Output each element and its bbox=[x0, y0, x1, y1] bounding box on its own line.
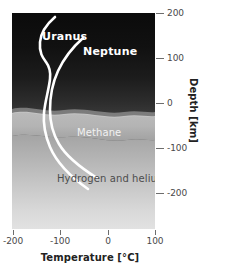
atmosphere-profile-chart: Uranus Neptune Methane Hydrogen and heli… bbox=[0, 0, 240, 276]
y-tick-label-100: 100 bbox=[167, 53, 184, 63]
y-tick-mark-200 bbox=[156, 13, 164, 14]
x-tick-mark-m200 bbox=[13, 230, 14, 235]
y-tick-label-0: 0 bbox=[167, 98, 173, 108]
y-tick-mark-0 bbox=[156, 103, 164, 104]
plot-area: Uranus Neptune Methane Hydrogen and heli… bbox=[12, 13, 155, 229]
y-axis-title: Depth [km] bbox=[188, 78, 199, 143]
x-axis-title: Temperature [°C] bbox=[0, 252, 180, 263]
annotation-neptune: Neptune bbox=[83, 45, 137, 58]
x-tick-label-m200: -200 bbox=[3, 236, 23, 246]
y-tick-mark-m100 bbox=[156, 148, 164, 149]
annotation-methane: Methane bbox=[77, 127, 121, 138]
x-tick-mark-m100 bbox=[60, 230, 61, 235]
y-tick-mark-100 bbox=[156, 58, 164, 59]
x-tick-label-0: 0 bbox=[105, 236, 111, 246]
annotation-hydrogen-and-helium: Hydrogen and helium bbox=[57, 173, 155, 184]
x-tick-mark-0 bbox=[108, 230, 109, 235]
y-tick-label-m100: -100 bbox=[167, 143, 187, 153]
x-tick-label-100: 100 bbox=[147, 236, 164, 246]
x-tick-label-m100: -100 bbox=[50, 236, 70, 246]
y-tick-label-m200: -200 bbox=[167, 188, 187, 198]
x-tick-mark-100 bbox=[155, 230, 156, 235]
y-tick-label-200: 200 bbox=[167, 8, 184, 18]
annotation-uranus: Uranus bbox=[42, 30, 87, 43]
y-tick-mark-m200 bbox=[156, 193, 164, 194]
